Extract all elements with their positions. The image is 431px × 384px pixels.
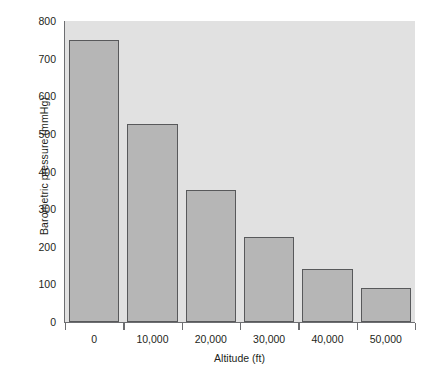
y-axis-tick-label: 600: [24, 90, 56, 102]
bar: [244, 237, 294, 322]
x-axis-title: Altitude (ft): [64, 352, 415, 364]
y-axis-tick-label: 300: [24, 203, 56, 215]
y-axis-tick-label: 200: [24, 241, 56, 253]
x-axis-tick-mark: [298, 323, 299, 330]
y-axis-tick-label: 100: [24, 278, 56, 290]
x-axis-tick-mark: [357, 323, 358, 330]
bar: [302, 269, 352, 322]
y-axis-tick-label: 0: [24, 316, 56, 328]
top-crop-artifact: [0, 0, 431, 6]
y-axis-tick-label: 800: [24, 15, 56, 27]
bar: [361, 288, 411, 322]
x-axis-tick-mark: [182, 323, 183, 330]
x-axis-tick-marks: [64, 323, 415, 330]
x-axis-tick-mark: [123, 323, 124, 330]
x-axis-tick-labels: 010,00020,00030,00040,00050,000: [64, 333, 415, 347]
x-axis-tick-mark: [65, 323, 66, 330]
x-axis-tick-label: 50,000: [351, 333, 421, 345]
y-axis-tick-label: 500: [24, 128, 56, 140]
bars-layer: [65, 21, 415, 322]
y-axis-tick-label: 700: [24, 53, 56, 65]
x-axis-tick-mark: [415, 323, 416, 330]
plot-area: [65, 21, 415, 322]
bar: [127, 124, 177, 322]
bar: [186, 190, 236, 322]
y-axis-tick-labels: 0100200300400500600700800: [24, 21, 56, 322]
x-axis-tick-mark: [240, 323, 241, 330]
y-axis-tick-label: 400: [24, 166, 56, 178]
bar-chart-figure: Barometric pressure (mmHg) 0100200300400…: [0, 0, 431, 384]
bar: [69, 40, 119, 322]
